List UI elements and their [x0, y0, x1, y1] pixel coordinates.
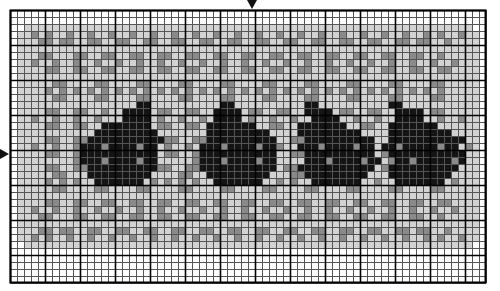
left-center-marker-icon: [0, 149, 9, 159]
top-center-marker-icon: [247, 0, 257, 9]
cross-stitch-chart: Beetle Border Cross Stitch Chart Symmetr…: [0, 0, 500, 291]
stitch-grid-canvas[interactable]: [0, 0, 500, 291]
